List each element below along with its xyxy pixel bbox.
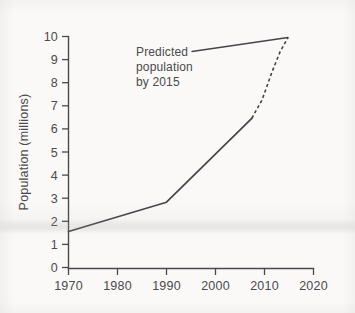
y-axis-title: Population (millions) [17,94,31,211]
chart-figure: 10 9 8 7 6 5 4 3 2 1 0 1970 1980 1990 20… [0,0,355,313]
y-tick-label-0: 0 [51,261,58,275]
y-tick-label-5: 5 [51,146,58,160]
y-tick-label-4: 4 [51,169,58,183]
y-axis-tick-labels: 10 9 8 7 6 5 4 3 2 1 0 [44,30,58,275]
y-tick-label-9: 9 [51,53,58,67]
x-tick-label-2010: 2010 [250,279,279,293]
annotation-line-3: by 2015 [136,75,180,89]
annotation-line-1: Predicted [136,45,188,59]
x-tick-label-1980: 1980 [103,279,132,293]
y-tick-label-6: 6 [51,122,58,136]
x-tick-label-2020: 2020 [299,279,328,293]
series-observed-line [69,118,252,231]
y-tick-label-8: 8 [51,76,58,90]
y-tick-label-7: 7 [51,99,58,113]
y-tick-label-1: 1 [51,238,58,252]
x-tick-label-2000: 2000 [201,279,230,293]
annotation-line-2: population [136,60,193,74]
x-axis-ticks [69,269,314,276]
x-tick-label-1990: 1990 [152,279,181,293]
x-axis-tick-labels: 1970 1980 1990 2000 2010 2020 [54,279,328,293]
annotation-leader-line [192,38,288,52]
series-predicted-line [252,38,288,119]
y-tick-label-2: 2 [51,215,58,229]
annotation-text-group: Predicted population by 2015 [136,45,193,89]
population-chart-svg: 10 9 8 7 6 5 4 3 2 1 0 1970 1980 1990 20… [0,0,355,313]
y-tick-label-3: 3 [51,192,58,206]
y-tick-label-10: 10 [44,30,58,44]
x-tick-label-1970: 1970 [54,279,83,293]
y-axis-ticks [62,37,69,268]
